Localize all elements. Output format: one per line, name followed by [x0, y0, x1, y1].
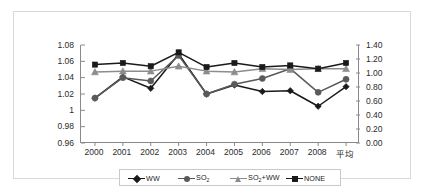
chart-frame: 1.081.061.041.0210.980.96 1.401.201.000.… — [13, 11, 411, 179]
y-left-tick-label: 1.04 — [40, 73, 74, 82]
y-right-tick-label: 0.60 — [366, 97, 400, 106]
y-left-tick-label: 1.08 — [40, 41, 74, 50]
triangle-marker-icon — [230, 173, 247, 184]
legend-item-WW[interactable]: WW — [128, 172, 160, 185]
series-SO2 — [92, 53, 349, 101]
diamond-marker-icon — [128, 173, 145, 184]
y-right-tick-label: 0.40 — [366, 111, 400, 120]
legend-label: WW — [146, 174, 160, 183]
y-right-tick-label: 0.00 — [366, 139, 400, 148]
y-right-tick-label: 1.40 — [366, 41, 400, 50]
chart-legend: WWSO2SO2+WWNONE — [119, 169, 341, 186]
series-NONE — [92, 50, 348, 72]
circle-marker-icon — [178, 173, 195, 184]
y-left-tick-label: 0.96 — [40, 139, 74, 148]
y-left-tick-label: 0.98 — [40, 122, 74, 131]
y-right-tick-label: 0.80 — [366, 83, 400, 92]
legend-item-SO2+WW[interactable]: SO2+WW — [230, 172, 280, 185]
y-left-tick-label: 1.02 — [40, 90, 74, 99]
legend-label: SO2 — [196, 173, 210, 183]
legend-item-SO2[interactable]: SO2 — [178, 172, 210, 185]
legend-item-NONE[interactable]: NONE — [286, 172, 325, 185]
plot-area — [80, 45, 359, 143]
y-right-tick-label: 0.20 — [366, 125, 400, 134]
series-WW — [92, 51, 350, 110]
y-right-tick-label: 1.20 — [366, 55, 400, 64]
legend-label: NONE — [304, 174, 325, 183]
y-left-tick-label: 1 — [40, 106, 74, 115]
y-left-tick-label: 1.06 — [40, 57, 74, 66]
legend-label: SO2+WW — [248, 173, 280, 183]
y-axis-left: 1.081.061.041.0210.980.96 — [40, 40, 74, 150]
x-axis: 200020012002200320042005200620072008平均 — [80, 147, 359, 161]
y-axis-right: 1.401.201.000.800.600.400.200.00 — [366, 40, 400, 150]
square-marker-icon — [286, 173, 303, 184]
x-axis-tick-label: 平均 — [325, 147, 365, 159]
series-lines — [81, 45, 360, 143]
y-right-tick-label: 1.00 — [366, 69, 400, 78]
